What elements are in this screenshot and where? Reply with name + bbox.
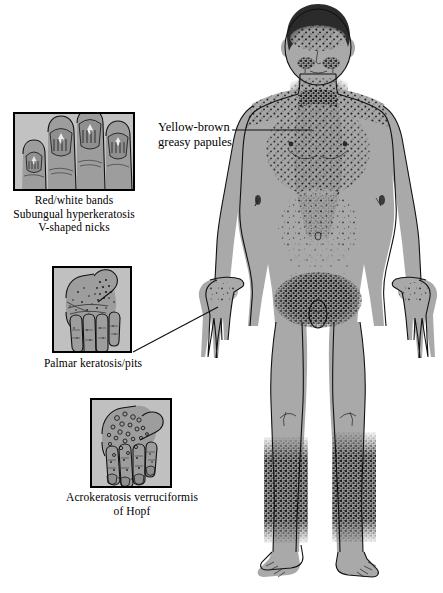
- caption-acrokeratosis: Acrokeratosis verruciformis of Hopf: [44, 491, 220, 518]
- illustration-canvas: Yellow-brown greasy papules: [0, 0, 443, 593]
- caption-palmar-keratosis: Palmar keratosis/pits: [30, 357, 156, 371]
- inset-palmar-keratosis: [52, 266, 132, 353]
- nail-detail-drawing: [15, 114, 133, 189]
- annotation-yellow-brown-papules: Yellow-brown greasy papules: [158, 120, 246, 150]
- inset-nail-changes: [13, 112, 135, 191]
- inset-acrokeratosis: [90, 398, 172, 488]
- palm-detail-drawing: [54, 268, 130, 351]
- dorsal-hand-drawing: [92, 400, 170, 486]
- caption-nail-changes: Red/white bands Subungual hyperkeratosis…: [6, 194, 142, 235]
